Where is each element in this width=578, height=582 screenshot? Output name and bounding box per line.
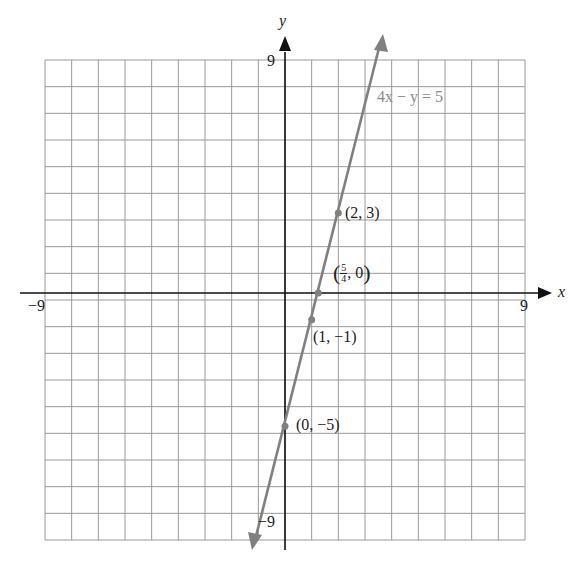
line-arrow-up-icon bbox=[374, 34, 388, 52]
x-min-tick-label: −9 bbox=[28, 297, 45, 315]
equation-label: 4x − y = 5 bbox=[377, 88, 443, 106]
y-axis-label: y bbox=[279, 12, 286, 30]
point-label-1-neg1: (1, −1) bbox=[313, 328, 357, 346]
x-axis-arrow-icon bbox=[538, 287, 552, 299]
point-0-neg5 bbox=[282, 423, 289, 430]
point-label-2-3: (2, 3) bbox=[345, 204, 380, 222]
graph-figure: y x 9 −9 9 −9 4x − y = 5 (2, 3) (54, 0) … bbox=[0, 0, 578, 582]
coordinate-plane bbox=[0, 0, 578, 582]
point-1-neg1 bbox=[308, 316, 315, 323]
point-label-0-neg5: (0, −5) bbox=[296, 416, 340, 434]
point-label-5-4-0: (54, 0) bbox=[333, 260, 371, 286]
point-5-4-0 bbox=[315, 290, 322, 297]
y-axis-arrow-icon bbox=[279, 36, 291, 51]
line-arrow-down-icon bbox=[248, 532, 262, 550]
y-max-tick-label: 9 bbox=[267, 52, 275, 70]
y-min-tick-label: −9 bbox=[258, 513, 275, 531]
point-2-3 bbox=[335, 210, 342, 217]
x-max-tick-label: 9 bbox=[520, 297, 528, 315]
x-axis-label: x bbox=[558, 283, 565, 301]
